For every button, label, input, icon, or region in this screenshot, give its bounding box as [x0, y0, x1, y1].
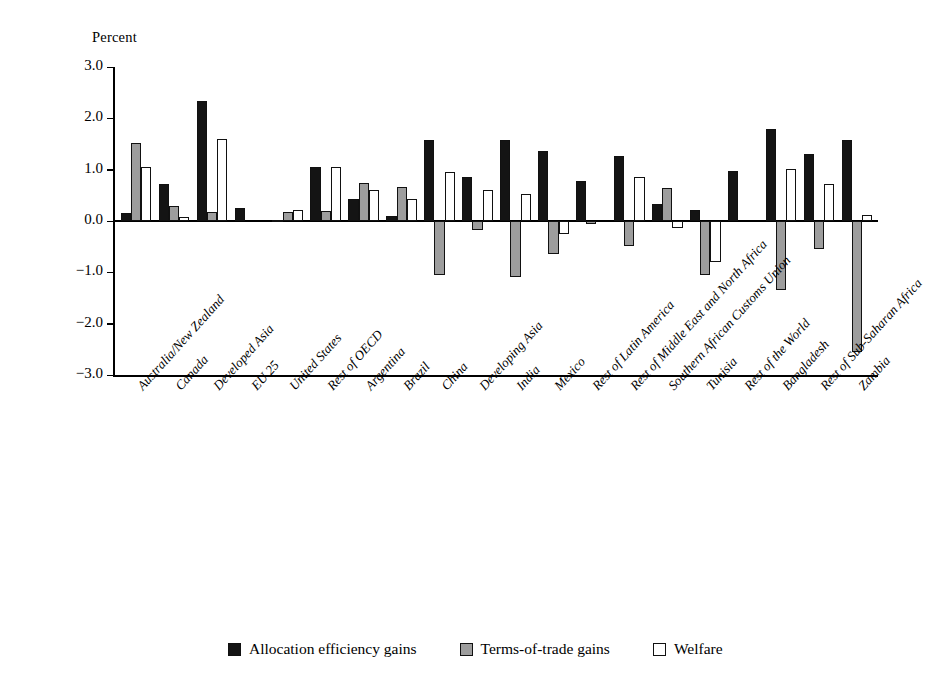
bar-0 — [121, 213, 131, 221]
bar-1 — [434, 221, 444, 275]
bar-1 — [624, 221, 634, 246]
y-axis-tick-label: −2.0 — [41, 314, 103, 331]
y-axis-tick — [107, 118, 114, 120]
bar-0 — [614, 156, 624, 221]
legend-swatch — [228, 643, 241, 656]
bar-2 — [141, 167, 151, 221]
bar-1 — [359, 183, 369, 222]
y-axis-tick — [107, 169, 114, 171]
y-axis-tick — [107, 323, 114, 325]
y-axis-tick — [107, 67, 114, 69]
bar-1 — [510, 221, 520, 277]
bar-1 — [586, 221, 596, 224]
bar-0 — [159, 184, 169, 221]
bar-1 — [852, 221, 862, 352]
bar-2 — [559, 221, 569, 234]
zero-baseline — [113, 220, 878, 222]
bar-1 — [321, 211, 331, 221]
legend-label: Allocation efficiency gains — [249, 640, 417, 658]
bar-1 — [814, 221, 824, 249]
y-axis-line — [113, 67, 115, 377]
legend-item-1: Terms-of-trade gains — [460, 640, 610, 658]
bar-1 — [283, 212, 293, 221]
bar-2 — [331, 167, 341, 221]
legend-swatch — [460, 643, 473, 656]
bar-2 — [293, 210, 303, 221]
bar-0 — [197, 101, 207, 221]
y-axis-tick-label: −1.0 — [41, 262, 103, 279]
bar-0 — [310, 167, 320, 221]
bar-0 — [690, 210, 700, 221]
bar-1 — [131, 143, 141, 221]
bar-0 — [386, 216, 396, 221]
bar-1 — [472, 221, 482, 230]
bar-2 — [824, 184, 834, 221]
bar-2 — [672, 221, 682, 228]
bar-0 — [804, 154, 814, 221]
y-axis-tick-label: 1.0 — [41, 160, 103, 177]
bar-0 — [538, 151, 548, 221]
bar-0 — [348, 199, 358, 221]
bar-0 — [652, 204, 662, 221]
bar-0 — [576, 181, 586, 221]
bar-0 — [500, 140, 510, 221]
bar-1 — [662, 188, 672, 221]
bar-2 — [445, 172, 455, 221]
y-axis-tick-label: 0.0 — [41, 211, 103, 228]
legend-label: Terms-of-trade gains — [481, 640, 610, 658]
bar-2 — [369, 190, 379, 221]
bar-2 — [179, 217, 189, 221]
bar-2 — [786, 169, 796, 221]
bar-2 — [407, 199, 417, 221]
y-axis-tick-label: 3.0 — [41, 57, 103, 74]
legend-label: Welfare — [674, 640, 723, 658]
bar-1 — [700, 221, 710, 275]
bar-1 — [207, 212, 217, 221]
bar-0 — [272, 220, 282, 222]
bar-2 — [710, 221, 720, 262]
bar-0 — [842, 140, 852, 221]
bar-1 — [397, 187, 407, 221]
bar-0 — [235, 208, 245, 221]
legend-swatch — [653, 643, 666, 656]
bar-1 — [548, 221, 558, 254]
bar-0 — [424, 140, 434, 221]
bar-2 — [862, 215, 872, 221]
y-axis-tick — [107, 272, 114, 274]
legend-item-2: Welfare — [653, 640, 723, 658]
bar-2 — [521, 194, 531, 221]
bar-0 — [728, 171, 738, 221]
bar-2 — [217, 139, 227, 221]
y-axis-tick-label: 2.0 — [41, 108, 103, 125]
bar-2 — [483, 190, 493, 221]
bar-2 — [634, 177, 644, 221]
bar-1 — [169, 206, 179, 221]
bar-0 — [462, 177, 472, 221]
legend-item-0: Allocation efficiency gains — [228, 640, 417, 658]
y-axis-tick-label: −3.0 — [41, 365, 103, 382]
bar-0 — [766, 129, 776, 221]
chart-legend: Allocation efficiency gainsTerms-of-trad… — [228, 640, 757, 658]
